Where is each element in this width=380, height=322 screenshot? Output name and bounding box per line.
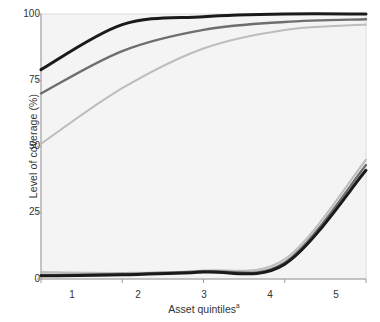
chart-container: Level of coverage (%) 100 75 50 25 0 1 2… [0, 0, 380, 322]
plot-area [0, 0, 380, 322]
